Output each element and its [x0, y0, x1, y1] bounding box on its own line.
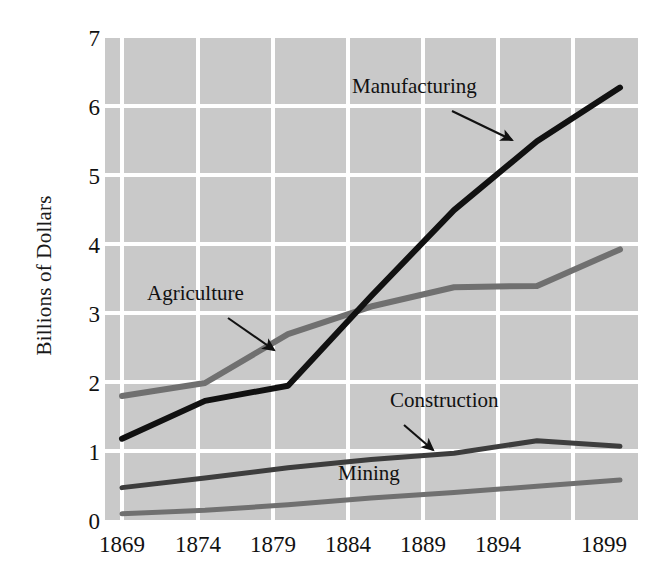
x-tick-1899: 1899 — [581, 533, 627, 556]
arrow-manufacturing — [452, 111, 512, 140]
x-tick-1874: 1874 — [175, 533, 221, 556]
x-tick-1884: 1884 — [325, 533, 371, 556]
arrow-agriculture — [228, 318, 274, 350]
x-tick-1889: 1889 — [400, 533, 446, 556]
annotation-arrows — [0, 0, 670, 581]
line-chart: Billions of Dollars 7 6 5 4 3 2 1 0 — [0, 0, 670, 581]
x-axis-tick-labels: 1869 1874 1879 1884 1889 1894 1899 — [0, 533, 670, 569]
arrow-construction — [404, 425, 433, 450]
x-tick-1879: 1879 — [250, 533, 296, 556]
x-tick-1894: 1894 — [475, 533, 521, 556]
x-tick-1869: 1869 — [99, 533, 145, 556]
